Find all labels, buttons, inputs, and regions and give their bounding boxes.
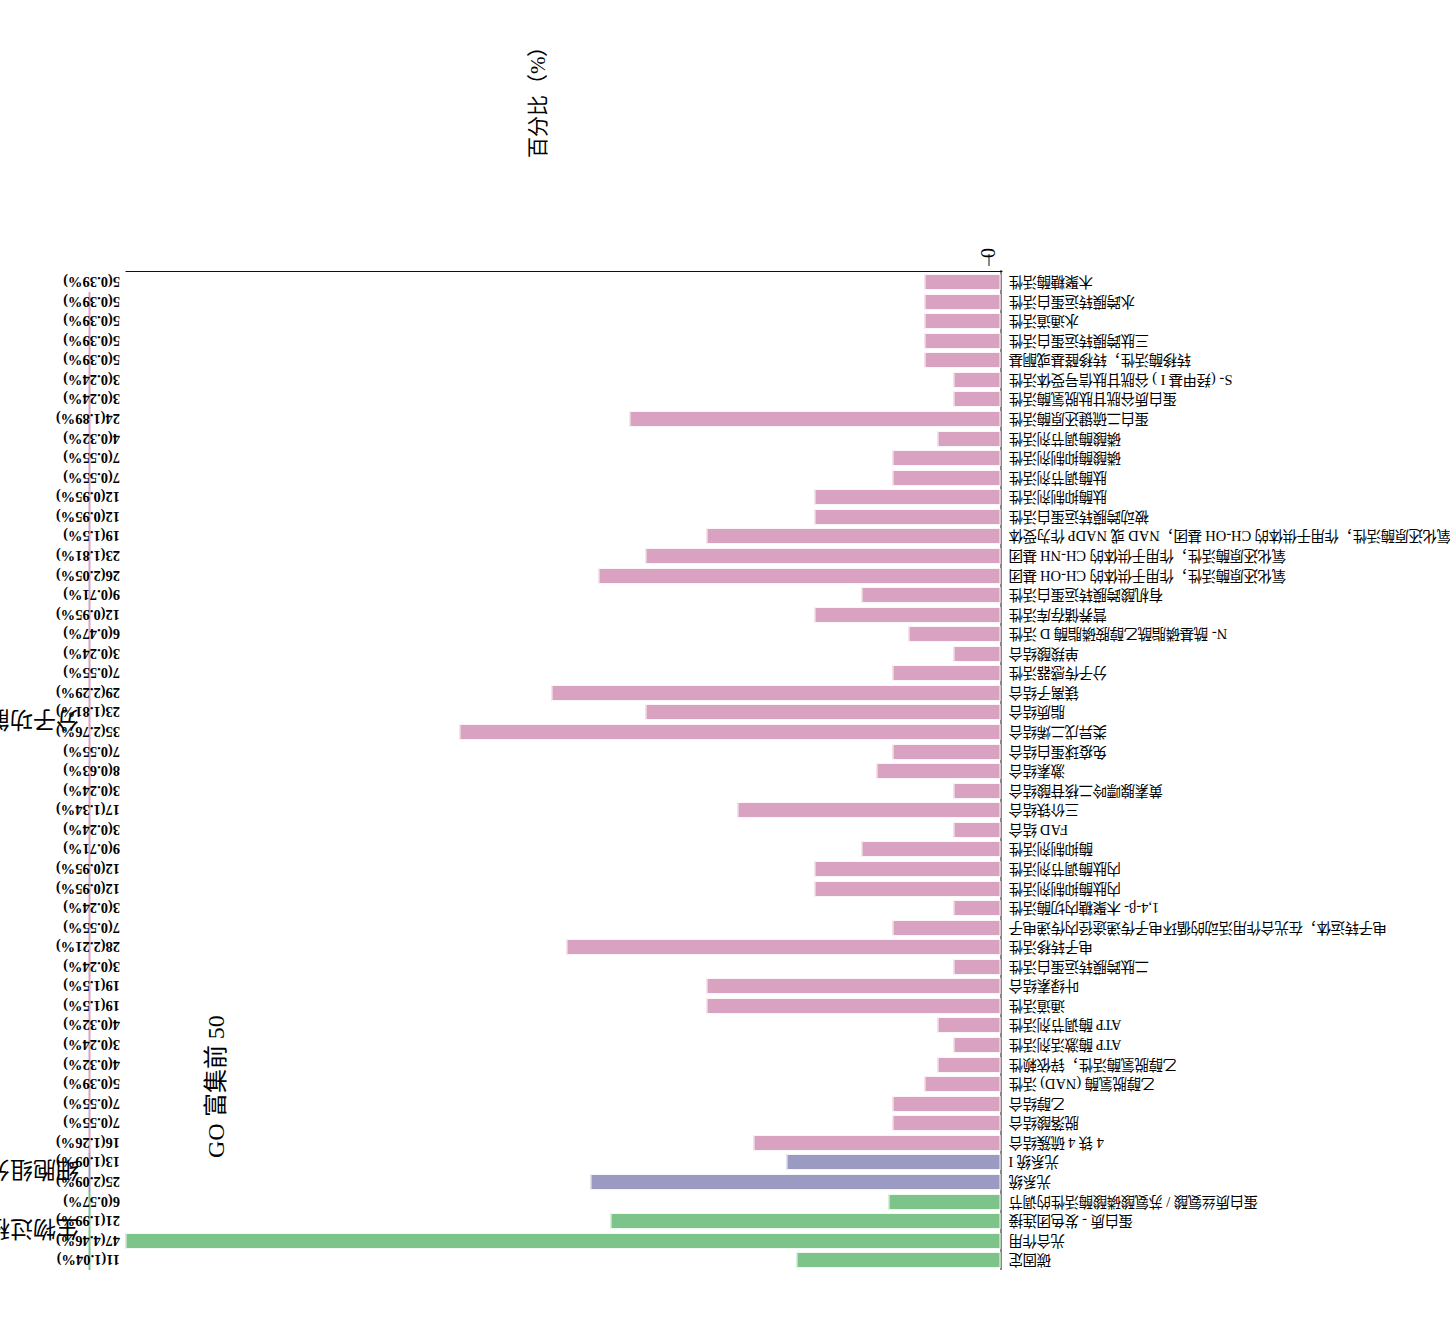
bar[interactable]: 3(0.24%) bbox=[953, 822, 1000, 838]
bar[interactable]: 5(0.39%) bbox=[924, 333, 1001, 349]
bar-item[interactable]: 7(0.55%) bbox=[125, 664, 1000, 684]
bar[interactable]: 4(0.32%) bbox=[937, 1017, 1000, 1033]
bar-item[interactable]: 13(1.09%) bbox=[125, 1153, 1000, 1173]
bar-item[interactable]: 25(2.09%) bbox=[125, 1172, 1000, 1192]
bar[interactable]: 4(0.32%) bbox=[937, 1057, 1000, 1073]
bar[interactable]: 5(0.39%) bbox=[924, 352, 1001, 368]
bar-item[interactable]: 3(0.24%) bbox=[125, 898, 1000, 918]
bar-item[interactable]: 3(0.24%) bbox=[125, 957, 1000, 977]
bar[interactable]: 7(0.55%) bbox=[892, 1096, 1000, 1112]
bar[interactable]: 3(0.24%) bbox=[953, 372, 1000, 388]
bar[interactable]: 19(1.5%) bbox=[706, 528, 1000, 544]
bar-item[interactable]: 23(1.81%) bbox=[125, 546, 1000, 566]
bar[interactable]: 35(2.76%) bbox=[459, 724, 1000, 740]
bar-item[interactable]: 24(1.89%) bbox=[125, 409, 1000, 429]
bar-item[interactable]: 12(0.95%) bbox=[125, 859, 1000, 879]
bar-item[interactable]: 7(0.55%) bbox=[125, 1094, 1000, 1114]
bar[interactable]: 7(0.55%) bbox=[892, 1115, 1000, 1131]
bar[interactable]: 5(0.39%) bbox=[924, 274, 1001, 290]
bar[interactable]: 5(0.39%) bbox=[924, 294, 1001, 310]
bar-item[interactable]: 9(0.71%) bbox=[125, 840, 1000, 860]
bar-item[interactable]: 5(0.39%) bbox=[125, 292, 1000, 312]
bar-item[interactable]: 28(2.21%) bbox=[125, 937, 1000, 957]
bar-item[interactable]: 4(0.32%) bbox=[125, 1055, 1000, 1075]
bar[interactable]: 3(0.24%) bbox=[953, 391, 1000, 407]
bar-item[interactable]: 19(1.5%) bbox=[125, 996, 1000, 1016]
bar[interactable]: 13(1.09%) bbox=[786, 1154, 1000, 1170]
bar-item[interactable]: 19(1.5%) bbox=[125, 527, 1000, 547]
bar-item[interactable]: 19(1.5%) bbox=[125, 977, 1000, 997]
bar-item[interactable]: 3(0.24%) bbox=[125, 1035, 1000, 1055]
bar-item[interactable]: 26(2.05%) bbox=[125, 566, 1000, 586]
bar-item[interactable]: 7(0.55%) bbox=[125, 468, 1000, 488]
bar[interactable]: 3(0.24%) bbox=[953, 900, 1000, 916]
bar[interactable]: 28(2.21%) bbox=[566, 939, 1000, 955]
bar-item[interactable]: 21(1.99%) bbox=[125, 1211, 1000, 1231]
bar-item[interactable]: 5(0.39%) bbox=[125, 331, 1000, 351]
bar-item[interactable]: 29(2.29%) bbox=[125, 683, 1000, 703]
bar-item[interactable]: 3(0.24%) bbox=[125, 370, 1000, 390]
bar[interactable]: 5(0.39%) bbox=[924, 1076, 1001, 1092]
bar[interactable]: 7(0.55%) bbox=[892, 470, 1000, 486]
bar[interactable]: 47(4.46%) bbox=[125, 1233, 1000, 1249]
bar[interactable]: 7(0.55%) bbox=[892, 450, 1000, 466]
bar-item[interactable]: 7(0.55%) bbox=[125, 1114, 1000, 1134]
bar[interactable]: 12(0.95%) bbox=[814, 881, 1000, 897]
bar-item[interactable]: 3(0.24%) bbox=[125, 820, 1000, 840]
bar-item[interactable]: 6(0.57%) bbox=[125, 1192, 1000, 1212]
bar[interactable]: 3(0.24%) bbox=[953, 959, 1000, 975]
bar-item[interactable]: 4(0.32%) bbox=[125, 429, 1000, 449]
bar[interactable]: 24(1.89%) bbox=[629, 411, 1000, 427]
bar[interactable]: 3(0.24%) bbox=[953, 646, 1000, 662]
bar[interactable]: 7(0.55%) bbox=[892, 920, 1000, 936]
bar[interactable]: 12(0.95%) bbox=[814, 509, 1000, 525]
bar-item[interactable]: 5(0.39%) bbox=[125, 1074, 1000, 1094]
bar-item[interactable]: 47(4.46%) bbox=[125, 1231, 1000, 1251]
bar-item[interactable]: 5(0.39%) bbox=[125, 311, 1000, 331]
bar[interactable]: 23(1.81%) bbox=[645, 704, 1000, 720]
bar[interactable]: 9(0.71%) bbox=[861, 841, 1000, 857]
bar-item[interactable]: 35(2.76%) bbox=[125, 722, 1000, 742]
bar-item[interactable]: 16(1.26%) bbox=[125, 1133, 1000, 1153]
bar[interactable]: 25(2.09%) bbox=[590, 1174, 1000, 1190]
bar-item[interactable]: 12(0.95%) bbox=[125, 507, 1000, 527]
bar[interactable]: 19(1.5%) bbox=[706, 978, 1000, 994]
bar-item[interactable]: 3(0.24%) bbox=[125, 644, 1000, 664]
bar[interactable]: 11(1.04%) bbox=[796, 1252, 1000, 1268]
bar-item[interactable]: 5(0.39%) bbox=[125, 351, 1000, 371]
bar[interactable]: 19(1.5%) bbox=[706, 998, 1000, 1014]
bar[interactable]: 16(1.26%) bbox=[753, 1135, 1000, 1151]
bar[interactable]: 6(0.47%) bbox=[908, 626, 1000, 642]
bar-item[interactable]: 3(0.24%) bbox=[125, 390, 1000, 410]
bar-item[interactable]: 7(0.55%) bbox=[125, 918, 1000, 938]
bar-item[interactable]: 12(0.95%) bbox=[125, 605, 1000, 625]
bar[interactable]: 17(1.34%) bbox=[737, 802, 1000, 818]
bar[interactable]: 6(0.57%) bbox=[888, 1194, 1000, 1210]
bar-item[interactable]: 6(0.47%) bbox=[125, 624, 1000, 644]
bar-item[interactable]: 12(0.95%) bbox=[125, 879, 1000, 899]
bar-item[interactable]: 7(0.55%) bbox=[125, 742, 1000, 762]
bar[interactable]: 3(0.24%) bbox=[953, 1037, 1000, 1053]
bar[interactable]: 3(0.24%) bbox=[953, 783, 1000, 799]
bar[interactable]: 12(0.95%) bbox=[814, 489, 1000, 505]
bar[interactable]: 4(0.32%) bbox=[937, 431, 1000, 447]
bar-item[interactable]: 7(0.55%) bbox=[125, 448, 1000, 468]
bar[interactable]: 7(0.55%) bbox=[892, 665, 1000, 681]
bar[interactable]: 21(1.99%) bbox=[610, 1213, 1000, 1229]
bar[interactable]: 7(0.55%) bbox=[892, 744, 1000, 760]
bar-item[interactable]: 4(0.32%) bbox=[125, 1016, 1000, 1036]
bar-item[interactable]: 12(0.95%) bbox=[125, 488, 1000, 508]
bar-item[interactable]: 17(1.34%) bbox=[125, 801, 1000, 821]
bar[interactable]: 9(0.71%) bbox=[861, 587, 1000, 603]
bar[interactable]: 29(2.29%) bbox=[551, 685, 1000, 701]
bar[interactable]: 26(2.05%) bbox=[598, 568, 1000, 584]
bar[interactable]: 8(0.63%) bbox=[876, 763, 1000, 779]
bar[interactable]: 23(1.81%) bbox=[645, 548, 1000, 564]
bar-item[interactable]: 5(0.39%) bbox=[125, 272, 1000, 292]
bar-item[interactable]: 8(0.63%) bbox=[125, 761, 1000, 781]
bar-item[interactable]: 11(1.04%) bbox=[125, 1250, 1000, 1270]
bar[interactable]: 5(0.39%) bbox=[924, 313, 1001, 329]
bar-item[interactable]: 9(0.71%) bbox=[125, 585, 1000, 605]
bar[interactable]: 12(0.95%) bbox=[814, 607, 1000, 623]
bar-item[interactable]: 23(1.81%) bbox=[125, 703, 1000, 723]
